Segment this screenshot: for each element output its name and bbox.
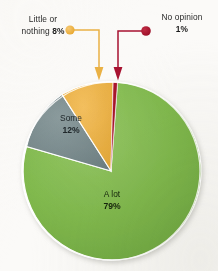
chart-canvas: Little or nothing 8% No opinion 1% Some … xyxy=(0,0,218,271)
callout-noopinion-value: 1% xyxy=(176,24,188,34)
slice-label-some-value: 12% xyxy=(42,124,100,136)
callout-leader-no-opinion xyxy=(114,26,151,80)
callout-little-name: nothing xyxy=(22,26,50,36)
slice-label-alot-value: 79% xyxy=(83,200,141,212)
callout-little-line1: Little or xyxy=(29,14,57,24)
callout-label-no-opinion: No opinion 1% xyxy=(150,12,214,35)
leader-line-red xyxy=(118,31,142,68)
slice-label-some-name: Some xyxy=(42,112,100,124)
slice-label-alot-name: A lot xyxy=(83,188,141,200)
pie-slices-group xyxy=(22,82,202,261)
slice-label-a-lot: A lot 79% xyxy=(83,188,141,212)
pie-chart-graphic xyxy=(0,0,218,271)
callout-label-little-or-nothing: Little or nothing 8% xyxy=(4,14,82,37)
slice-label-some: Some 12% xyxy=(42,112,100,136)
callout-little-value: 8% xyxy=(52,26,64,36)
callout-noopinion-line1: No opinion xyxy=(161,12,202,22)
leader-arrow-orange xyxy=(95,67,104,81)
leader-arrow-red xyxy=(114,67,123,81)
